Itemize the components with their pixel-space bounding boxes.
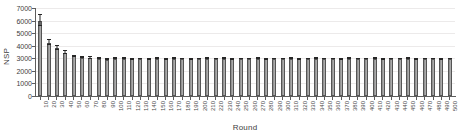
bar-slot [95,8,103,96]
bar [297,59,301,96]
bar-slot [312,8,320,96]
bar [72,56,76,96]
error-bar-cap-bottom [239,58,243,59]
error-bar-cap-bottom [189,59,193,60]
bar [406,59,410,96]
bar [414,59,418,96]
y-axis-tick-mark [32,83,35,84]
x-axis-tick-mark [324,97,325,100]
error-bar-cap-bottom [222,58,226,59]
x-axis-tick-mark [391,97,392,100]
x-axis-label-slot: 30 [53,101,61,121]
x-axis-tick-mark [374,97,375,100]
error-bar-cap-bottom [322,58,326,59]
error-bar-cap-bottom [256,58,260,59]
y-axis-tick-label: 3000 [16,55,32,62]
bar [423,59,427,96]
error-bar-cap-bottom [230,59,234,60]
x-axis-label-slot: 300 [278,101,286,121]
x-axis-label-slot: 250 [237,101,245,121]
error-bar-cap-bottom [197,58,201,59]
x-axis-title: Round [35,123,455,132]
bar-slot [145,8,153,96]
bar-slot [287,8,295,96]
x-axis-label-slot: 290 [270,101,278,121]
x-axis-tick-mark [399,97,400,100]
bar-slot [195,8,203,96]
x-axis-tick-mark [299,97,300,100]
x-axis-tick-mark [107,97,108,100]
x-axis-label-slot: 100 [111,101,119,121]
x-axis-label-slot: 470 [421,101,429,121]
error-bar-cap-bottom [97,58,101,59]
error-bar-cap-bottom [431,58,435,59]
x-axis-tick-mark [424,97,425,100]
bar-slot [270,8,278,96]
error-bar-cap-bottom [80,57,84,58]
error-bar-cap-bottom [105,59,109,60]
x-axis-label-slot: 490 [437,101,445,121]
x-axis-tick-mark [257,97,258,100]
x-axis-label-slot: 450 [404,101,412,121]
bar [47,43,51,96]
x-axis-label-slot: 460 [412,101,420,121]
bar [331,59,335,96]
x-axis-label-slot: 180 [178,101,186,121]
bar [364,59,368,96]
x-axis-label-slot: 410 [370,101,378,121]
bar-slot [446,8,454,96]
y-axis-tick-label: 7000 [16,5,32,12]
y-axis-tick-labels: 01000200030004000500060007000 [11,8,34,96]
bar [88,58,92,96]
x-axis-tick-mark [416,97,417,100]
bar [398,59,402,96]
bar [239,59,243,96]
bar-slot [69,8,77,96]
error-bar-cap-bottom [389,58,393,59]
y-axis-tick-mark [32,46,35,47]
error-bar-cap-bottom [172,58,176,59]
bar [448,59,452,96]
error-bar-cap-bottom [414,59,418,60]
x-axis-tick-mark [173,97,174,100]
bar [189,59,193,96]
error-bar-cap-bottom [138,58,142,59]
x-axis-label-slot: 160 [161,101,169,121]
bar [230,59,234,96]
error-bar-cap-bottom [155,58,159,59]
error-bar-cap-bottom [306,58,310,59]
x-axis-tick-mark [433,97,434,100]
bar [222,59,226,96]
x-axis-label-slot: 380 [345,101,353,121]
error-bar-cap-bottom [164,59,168,60]
bar-slot [379,8,387,96]
error-bar-cap-bottom [247,58,251,59]
x-axis-tick-mark [199,97,200,100]
error-bar-cap-bottom [331,58,335,59]
x-axis-label-slot: 240 [228,101,236,121]
error-bar-cap-bottom [180,58,184,59]
x-axis-tick-mark [98,97,99,100]
x-axis-label-slot: 340 [312,101,320,121]
bar [97,59,101,96]
x-axis-label-slot: 260 [245,101,253,121]
bar-slot [153,8,161,96]
x-axis-label-slot: 390 [354,101,362,121]
x-axis-tick-mark [382,97,383,100]
bar [439,59,443,96]
x-axis-tick-mark [115,97,116,100]
x-axis-tick-mark [290,97,291,100]
x-axis-label-slot: 500 [446,101,454,121]
x-axis-label-slot: 150 [153,101,161,121]
x-axis-tick-mark [81,97,82,100]
error-bar-cap-bottom [398,58,402,59]
x-axis-tick-mark [407,97,408,100]
x-axis-label-slot: 20 [44,101,52,121]
bar-slot [329,8,337,96]
x-axis-label-slot: 190 [186,101,194,121]
y-axis-tick-mark [32,33,35,34]
bar [356,59,360,96]
x-axis-tick-mark [240,97,241,100]
x-axis-tick-mark [307,97,308,100]
bar [281,59,285,96]
